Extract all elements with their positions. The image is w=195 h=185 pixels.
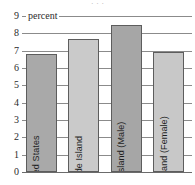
bar-shadow xyxy=(98,44,99,172)
chart-title-remnant: · · · xyxy=(0,0,195,6)
bar: United States xyxy=(26,54,57,172)
bar-category-label: Rhode Island xyxy=(75,136,84,172)
y-tick-label-0: 0 xyxy=(1,167,19,177)
y-tick-label-7: 7 xyxy=(1,46,19,56)
y-tick-label-9: 9 xyxy=(1,11,19,21)
gridline-0 xyxy=(22,172,192,173)
bar-shadow xyxy=(183,57,184,172)
bar: Rhode Island xyxy=(68,39,99,172)
y-axis-ticks: 9876543210 xyxy=(0,16,19,172)
y-tick-label-6: 6 xyxy=(1,63,19,73)
bar-series: United StatesRhode IslandRhode Island (M… xyxy=(22,16,192,172)
bar-chart: · · · 9876543210 percent United StatesRh… xyxy=(0,0,195,185)
bar-category-label: Rhode Island (Male) xyxy=(117,122,126,172)
bar-category-label: United States xyxy=(32,135,41,172)
y-tick-label-5: 5 xyxy=(1,80,19,90)
bar: Rhode Island (Male) xyxy=(111,25,142,172)
y-tick-label-8: 8 xyxy=(1,28,19,38)
bar: Rhode Island (Female) xyxy=(153,52,184,172)
bar-shadow xyxy=(141,30,142,172)
y-tick-label-3: 3 xyxy=(1,115,19,125)
bar-category-label: Rhode Island (Female) xyxy=(160,116,169,172)
y-tick-label-4: 4 xyxy=(1,98,19,108)
y-tick-label-2: 2 xyxy=(1,132,19,142)
bar-shadow xyxy=(56,59,57,172)
y-tick-label-1: 1 xyxy=(1,150,19,160)
